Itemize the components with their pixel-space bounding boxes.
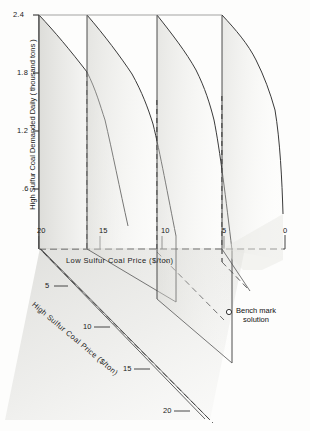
plot-canvas	[0, 0, 310, 431]
x-tick-4: 0	[283, 226, 287, 235]
y-tick-1: 1.8	[17, 68, 28, 77]
z-tick-1: 10	[83, 322, 92, 331]
x-tick-1: 15	[99, 226, 108, 235]
y-axis-title: High Sulfur Coal Demanded Daily ( thousa…	[28, 35, 37, 215]
z-tick-0: 5	[45, 281, 49, 290]
figure-3d-surface-plot: High Sulfur Coal Demanded Daily ( thousa…	[0, 0, 310, 431]
x-tick-0: 20	[37, 226, 46, 235]
x-axis-title: Low Sulfur Coal Price ($/ton)	[66, 256, 173, 265]
y-tick-2: 1.2	[17, 126, 28, 135]
benchmark-annotation: Bench mark solution	[236, 306, 276, 324]
y-tick-3: .6	[22, 184, 29, 193]
z-tick-3: 20	[163, 406, 172, 415]
z-tick-2: 15	[123, 364, 132, 373]
benchmark-line-2: solution	[236, 315, 276, 324]
x-tick-2: 10	[161, 226, 170, 235]
x-tick-3: 5	[222, 226, 226, 235]
y-tick-0: 2.4	[13, 10, 24, 19]
benchmark-line-1: Bench mark	[236, 306, 276, 315]
